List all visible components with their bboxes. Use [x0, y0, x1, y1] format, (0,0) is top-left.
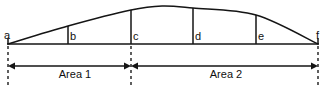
- point-label-c: c: [133, 31, 139, 42]
- curve-path: [8, 6, 318, 44]
- dimension-label-area-2: Area 2: [196, 68, 256, 80]
- ordinate-lines-group: [68, 8, 256, 44]
- point-label-a: a: [4, 30, 10, 41]
- point-label-e: e: [258, 31, 264, 42]
- arrow-head-right-2: [311, 62, 318, 69]
- point-label-d: d: [195, 31, 201, 42]
- end-tick-group: [8, 38, 318, 44]
- point-label-f: f: [316, 30, 319, 41]
- point-label-b: b: [70, 31, 76, 42]
- arrow-head-left-2: [131, 62, 138, 69]
- area-under-curve-diagram: a b c d e f Area 1 Area 2: [0, 0, 326, 90]
- dimension-label-area-1: Area 1: [45, 68, 105, 80]
- arrow-head-left-1: [8, 62, 15, 69]
- arrow-head-right-1: [124, 62, 131, 69]
